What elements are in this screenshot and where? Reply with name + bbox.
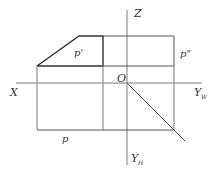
diagonal-45-line xyxy=(127,83,185,141)
front-view-label: p' xyxy=(74,47,83,58)
projection-diagram: Z X O Y W Y H p' p" p xyxy=(0,0,212,175)
yh-axis-subscript: H xyxy=(137,159,144,166)
top-view-label: p xyxy=(62,133,69,144)
x-axis-label: X xyxy=(9,86,19,99)
front-view-outline xyxy=(37,36,103,66)
side-view-label: p" xyxy=(180,48,191,59)
yw-axis-subscript: W xyxy=(201,93,208,100)
z-axis-label: Z xyxy=(133,7,142,20)
origin-label: O xyxy=(117,72,126,85)
